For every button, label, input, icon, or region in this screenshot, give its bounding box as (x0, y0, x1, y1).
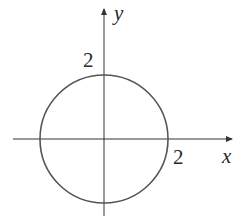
x-axis-label: x (221, 144, 232, 168)
diagram-canvas: y x 2 2 (0, 0, 240, 221)
x-intercept-label: 2 (173, 145, 184, 169)
y-axis-label: y (112, 1, 124, 25)
y-intercept-label: 2 (83, 48, 94, 72)
